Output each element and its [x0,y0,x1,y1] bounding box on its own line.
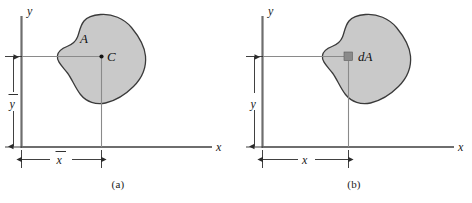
centroid-label-c: C [107,49,116,64]
figure-root: y x A C [0,0,472,203]
y-axis-label-a: y [26,4,33,18]
panel-a: y x A C [0,0,236,203]
x-axis-label-b: x [457,140,464,154]
panel-b-drawing: y x dA y x [236,0,472,203]
panel-a-drawing: y x A C [0,0,236,203]
panel-b-caption: (b) [236,178,472,190]
y-axis-label-b: y [267,4,274,18]
panel-a-caption: (a) [0,178,236,190]
element-label-da: dA [358,49,373,64]
ybar-letter-a: y [9,97,16,111]
area-label-a: A [79,31,88,46]
x-axis-label-a: x [215,140,222,154]
xbar-dimension-label-a: x [56,152,67,168]
xbar-letter-a: x [56,153,63,167]
x-dimension-label-b: x [301,153,308,167]
y-dimension-label-b: y [250,97,257,111]
centroid-dot [99,54,103,58]
differential-area-square [344,52,353,61]
ybar-dimension-label-a: y [9,95,19,112]
panel-b: y x dA y x (b) [236,0,472,203]
